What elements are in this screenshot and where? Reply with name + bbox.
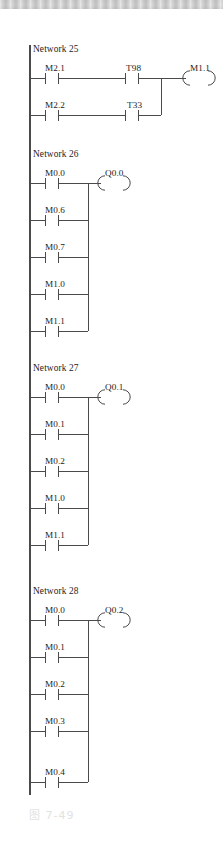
network-26-contact-label-M0-6: M0.6	[45, 206, 65, 215]
network-25-contact-label-M2-2: M2.2	[45, 101, 65, 110]
network-28-contact-label-M0-2: M0.2	[45, 680, 65, 689]
network-26-coil-label-Q0-0: Q0.0	[105, 169, 124, 178]
network-25-coil-label-M1-1: M1.1	[190, 64, 210, 73]
network-26-contact-label-M1-0: M1.0	[45, 280, 65, 289]
network-28-coil-label-Q0-2: Q0.2	[105, 606, 124, 615]
ladder-diagram	[0, 0, 223, 856]
ladder-svg-canvas	[0, 0, 223, 856]
network-26-contact-label-M0-0: M0.0	[45, 169, 65, 178]
network-28-contact-label-M0-0: M0.0	[45, 606, 65, 615]
network-28-contact-label-M0-1: M0.1	[45, 643, 65, 652]
network-26-label: Network 26	[33, 150, 79, 159]
network-27-contact-label-M1-0: M1.0	[45, 494, 65, 503]
network-27-contact-label-M0-2: M0.2	[45, 457, 65, 466]
figure-caption: 图 7-49	[29, 806, 74, 822]
network-27-label: Network 27	[33, 364, 79, 373]
network-26-contact-label-M0-7: M0.7	[45, 243, 65, 252]
network-28-contact-label-M0-3: M0.3	[45, 717, 65, 726]
network-28-label: Network 28	[33, 587, 79, 596]
network-25-label: Network 25	[33, 45, 79, 54]
network-27-coil-arc-right	[123, 390, 130, 404]
network-25-contact-label-T33: T33	[127, 101, 142, 110]
network-25-contact-label-T98: T98	[126, 64, 141, 73]
network-25-contact-label-M2-1: M2.1	[45, 64, 65, 73]
network-26-coil-arc-right	[123, 176, 130, 190]
network-27-contact-label-M0-0: M0.0	[45, 383, 65, 392]
network-26-contact-label-M1-1: M1.1	[45, 317, 65, 326]
network-28-contact-label-M0-4: M0.4	[45, 768, 65, 777]
network-27-contact-label-M0-1: M0.1	[45, 420, 65, 429]
network-27-contact-label-M1-1: M1.1	[45, 531, 65, 540]
network-27-coil-label-Q0-1: Q0.1	[105, 383, 124, 392]
network-28-coil-arc-right	[123, 613, 130, 627]
